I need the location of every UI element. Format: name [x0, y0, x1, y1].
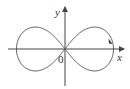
x-axis-label: x: [116, 51, 122, 63]
y-axis-label: y: [54, 6, 60, 18]
lemniscate-diagram: y x 0: [0, 0, 130, 89]
origin-label: 0: [58, 53, 64, 65]
